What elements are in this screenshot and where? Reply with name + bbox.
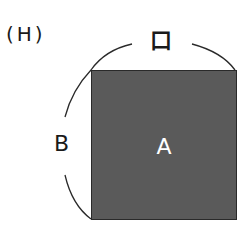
figure-label: (H) — [6, 24, 46, 44]
top-dimension-label: 口 — [150, 30, 172, 52]
left-dimension-arc-bottom — [65, 175, 91, 219]
top-dimension-arc-right — [192, 44, 235, 70]
left-dimension-label: B — [54, 133, 69, 155]
shaded-square: A — [91, 70, 237, 220]
top-dimension-arc — [91, 44, 132, 70]
area-label: A — [92, 134, 236, 159]
left-dimension-arc-top — [65, 70, 91, 117]
